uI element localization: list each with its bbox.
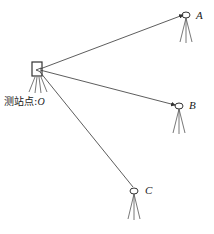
prism-target-a-icon xyxy=(180,12,192,43)
prism-target-c-icon xyxy=(128,188,140,220)
prism-target-b-icon xyxy=(173,103,185,134)
station-point-label: O xyxy=(37,96,44,107)
sight-line-b xyxy=(40,70,175,105)
target-label-c: C xyxy=(145,184,152,196)
station-label: 测站点:O xyxy=(4,93,45,108)
target-label-b: B xyxy=(189,99,196,111)
sight-line-a xyxy=(40,15,183,69)
survey-diagram xyxy=(0,0,214,234)
sight-line-c xyxy=(40,72,133,187)
target-label-a: A xyxy=(196,9,203,21)
station-label-text: 测站点: xyxy=(4,96,37,107)
